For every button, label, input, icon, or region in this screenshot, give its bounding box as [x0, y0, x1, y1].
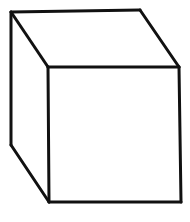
cube-diagram [0, 0, 190, 222]
bottom-left-diagonal-edge [11, 145, 49, 202]
top-left-diagonal-edge [11, 12, 48, 67]
top-back-edge [11, 10, 140, 12]
cube-drawing [0, 0, 190, 222]
front-left-vertical-edge [48, 67, 49, 202]
top-right-diagonal-edge [140, 10, 179, 67]
front-right-vertical-edge [179, 67, 181, 202]
